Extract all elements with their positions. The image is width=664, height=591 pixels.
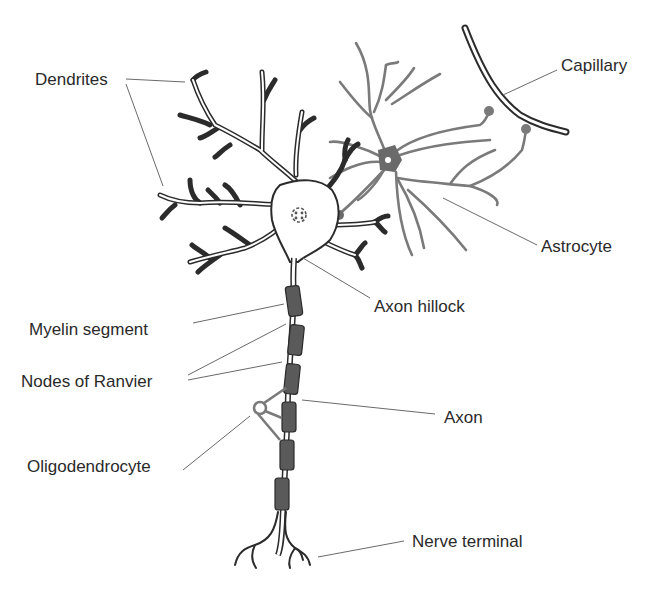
label-myelin-segment: Myelin segment xyxy=(29,321,148,338)
label-astrocyte: Astrocyte xyxy=(541,238,612,255)
label-nodes-of-ranvier: Nodes of Ranvier xyxy=(21,373,152,390)
neuron-soma xyxy=(271,180,338,262)
label-axon-hillock: Axon hillock xyxy=(374,298,465,315)
label-oligodendrocyte: Oligodendrocyte xyxy=(27,458,151,475)
nerve-terminal-branches xyxy=(235,512,310,568)
capillary-vessel xyxy=(465,28,566,132)
label-dendrites: Dendrites xyxy=(35,71,108,88)
neuron-dendrites xyxy=(160,72,388,272)
label-capillary: Capillary xyxy=(561,57,627,74)
oligodendrocyte-cell xyxy=(254,388,286,440)
label-axon: Axon xyxy=(444,409,483,426)
label-nerve-terminal: Nerve terminal xyxy=(412,533,523,550)
